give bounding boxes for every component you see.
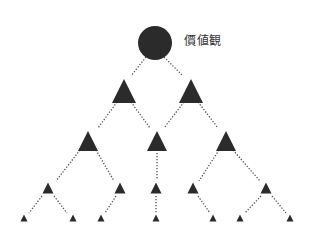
dotted-edge (199, 150, 219, 181)
dotted-edge (131, 57, 146, 76)
triangle-node-level-2 (179, 79, 203, 103)
triangle-node-level-5 (210, 215, 217, 222)
triangle-node-level-2 (112, 79, 136, 103)
value-hierarchy-diagram (0, 0, 311, 239)
triangle-node-level-4 (261, 183, 272, 194)
dotted-edge (233, 150, 260, 181)
triangle-node-level-5 (153, 215, 160, 222)
dotted-edge (131, 102, 150, 128)
triangle-node-level-5 (287, 215, 294, 222)
triangle-node-level-5 (70, 215, 77, 222)
triangle-node-level-4 (151, 183, 162, 194)
triangle-nodes (21, 79, 294, 222)
root-label: 價値観 (184, 31, 222, 48)
triangle-node-level-4 (115, 183, 126, 194)
triangle-node-level-5 (237, 215, 244, 222)
dotted-edge (98, 102, 117, 128)
dotted-edge (164, 57, 183, 76)
dotted-edge (272, 196, 286, 213)
triangle-node-level-4 (43, 183, 54, 194)
triangle-node-level-5 (98, 215, 105, 222)
triangle-node-level-3 (78, 131, 98, 151)
dotted-edge (56, 150, 80, 181)
triangle-node-level-3 (147, 131, 167, 151)
dotted-edge (105, 196, 116, 213)
dotted-edge (164, 102, 184, 128)
triangle-node-level-4 (188, 183, 199, 194)
dotted-edge (54, 196, 67, 213)
dotted-edge (198, 102, 218, 128)
dotted-edge (29, 196, 42, 213)
dotted-edge (198, 196, 210, 213)
root-circle-node (138, 26, 172, 60)
dotted-edge (96, 150, 114, 181)
dotted-edge (245, 196, 261, 213)
triangle-node-level-3 (216, 131, 236, 151)
triangle-node-level-5 (21, 215, 28, 222)
